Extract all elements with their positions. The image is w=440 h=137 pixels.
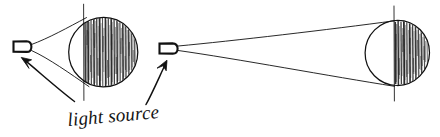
figure-container: light source [0,0,440,137]
light-source-caption: light source [67,101,160,130]
light-source-diagram: light source [0,0,440,137]
left-sphere-hatching [85,16,136,88]
left-callout-arrow [21,57,74,101]
right-callout-arrow [146,60,167,104]
left-light-cone [32,18,90,87]
left-light-source [14,41,32,52]
left-sphere [69,4,138,100]
right-sphere-hatching [395,21,427,85]
near-light-scene [14,4,138,100]
right-light-source [160,43,178,53]
right-light-cone [178,21,394,87]
right-sphere [365,6,429,101]
far-light-scene [160,6,430,101]
